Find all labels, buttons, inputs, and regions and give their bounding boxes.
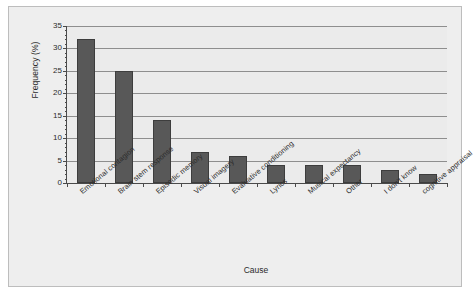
y-tick-label: 35: [53, 22, 62, 30]
x-axis-title: Cause: [66, 265, 446, 275]
x-tick: [181, 183, 182, 187]
y-axis-title: Frequency (%): [30, 10, 40, 130]
x-tick: [257, 183, 258, 187]
y-tick-label: 30: [53, 44, 62, 52]
x-tick: [447, 183, 448, 187]
y-tick-label: 0: [58, 179, 62, 187]
x-tick: [67, 183, 68, 187]
plot-area: 05101520253035 Emotional contagionBrain …: [66, 26, 447, 184]
x-tick: [105, 183, 106, 187]
x-tick: [371, 183, 372, 187]
chart-panel: Frequency (%) 05101520253035 Emotional c…: [8, 6, 462, 287]
bar: [77, 39, 94, 183]
y-tick-label: 15: [53, 112, 62, 120]
x-tick: [333, 183, 334, 187]
y-tick-label: 10: [53, 134, 62, 142]
y-tick-label: 5: [58, 157, 62, 165]
x-tick: [409, 183, 410, 187]
x-tick: [295, 183, 296, 187]
y-tick-label: 20: [53, 89, 62, 97]
x-tick: [219, 183, 220, 187]
y-tick-label: 25: [53, 67, 62, 75]
x-tick: [143, 183, 144, 187]
